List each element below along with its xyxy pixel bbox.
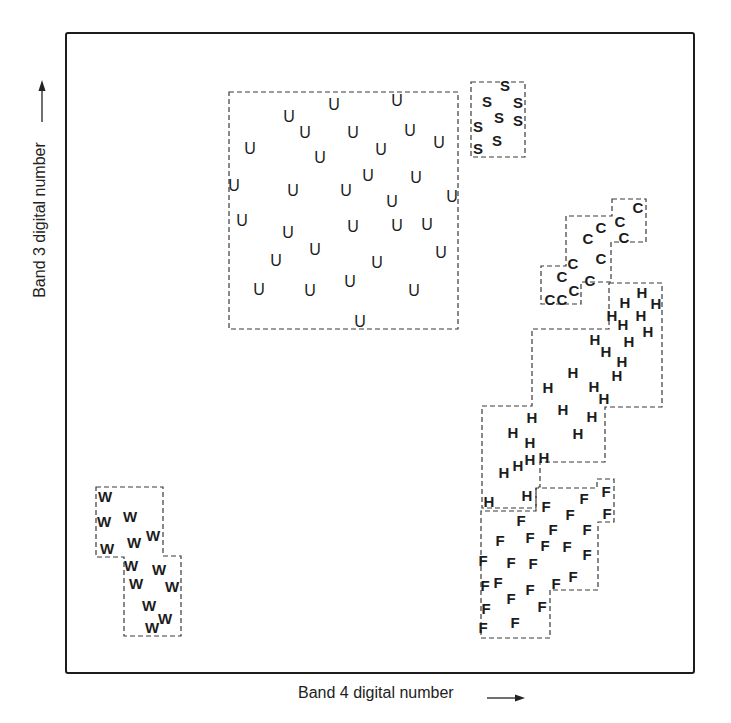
point-h: H [558,401,569,418]
point-c: C [633,199,644,216]
point-u: U [328,96,340,113]
point-c: C [557,268,568,285]
point-u: U [421,216,433,233]
point-f: F [548,521,557,538]
point-u: U [253,281,265,298]
point-w: W [100,540,115,557]
point-h: H [522,487,533,504]
point-h: H [651,295,662,312]
point-h: H [513,457,524,474]
point-c: C [615,213,626,230]
point-h: H [525,434,536,451]
point-f: F [568,568,577,585]
point-w: W [165,578,180,595]
point-c: C [585,272,596,289]
point-h: H [568,364,579,381]
point-f: F [525,581,534,598]
point-u: U [433,134,445,151]
point-u: U [446,188,458,205]
point-f: F [481,600,490,617]
point-f: F [551,575,560,592]
point-w: W [123,508,138,525]
point-h: H [636,307,647,324]
point-u: U [344,273,356,290]
point-f: F [565,506,574,523]
point-u: U [314,149,326,166]
point-f: F [506,590,515,607]
point-f: F [541,498,550,515]
point-f: F [478,552,487,569]
point-h: H [607,307,618,324]
point-f: F [602,505,611,522]
point-h: H [587,408,598,425]
point-u: U [282,224,294,241]
point-u: U [410,169,422,186]
point-w: W [127,534,142,551]
point-h: H [499,464,510,481]
point-u: U [340,182,352,199]
point-s: S [513,112,523,129]
point-s: S [482,93,492,110]
point-h: H [573,425,584,442]
point-u: U [244,140,256,157]
point-f: F [525,529,534,546]
point-u: U [371,254,383,271]
point-h: H [620,294,631,311]
x-axis-arrow-icon [487,693,527,703]
point-f: F [601,483,610,500]
point-w: W [158,610,173,627]
point-s: S [492,132,502,149]
point-s: S [513,94,523,111]
point-u: U [354,313,366,330]
scatter-plot: UUUUUUUUUUUUUUUUUUUUUUUUUUUUUUUSSSSSSSSC… [0,0,731,723]
point-s: S [473,140,483,157]
point-h: H [527,409,538,426]
point-h: H [543,379,554,396]
point-c: C [583,230,594,247]
point-f: F [528,555,537,572]
point-h: H [599,390,610,407]
point-h: H [539,449,550,466]
point-u: U [236,212,248,229]
point-w: W [145,619,160,636]
point-u: U [270,252,282,269]
point-h: H [590,331,601,348]
point-f: F [495,532,504,549]
point-f: F [540,537,549,554]
class-boundaries [96,82,662,638]
point-f: F [582,546,591,563]
point-u: U [391,92,403,109]
point-f: F [579,490,588,507]
point-h: H [643,323,654,340]
point-f: F [478,619,487,636]
point-s: S [494,109,504,126]
point-u: U [386,193,398,210]
point-h: H [618,316,629,333]
point-u: U [404,122,416,139]
point-c: C [569,282,580,299]
point-u: U [408,282,420,299]
point-h: H [508,424,519,441]
point-u: U [228,177,240,194]
point-w: W [98,488,113,505]
point-h: H [525,451,536,468]
point-h: H [624,333,635,350]
point-u: U [283,108,295,125]
point-w: W [142,597,157,614]
point-w: W [146,527,161,544]
point-u: U [391,217,403,234]
point-w: W [129,575,144,592]
point-h: H [637,284,648,301]
point-w: W [97,513,112,530]
y-axis-arrow-icon [37,80,47,122]
point-f: F [480,577,489,594]
y-axis-label: Band 3 digital number [31,142,49,298]
class-points: UUUUUUUUUUUUUUUUUUUUUUUUUUUUUUUSSSSSSSSC… [97,77,662,636]
point-u: U [362,167,374,184]
point-h: H [612,367,623,384]
point-f: F [506,554,515,571]
point-u: U [309,241,321,258]
point-c: C [557,291,568,308]
point-u: U [347,218,359,235]
point-f: F [510,614,519,631]
